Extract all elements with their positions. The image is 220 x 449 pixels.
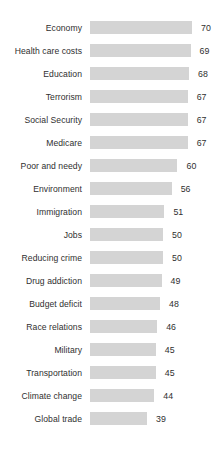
bar <box>90 389 154 402</box>
category-label: Economy <box>0 22 82 33</box>
bar <box>90 366 156 379</box>
value-label: 67 <box>197 91 207 102</box>
category-label: Race relations <box>0 321 82 332</box>
bar-row: Health care costs69 <box>0 44 220 57</box>
bar-row: Climate change44 <box>0 389 220 402</box>
bar-row: Economy70 <box>0 21 220 34</box>
bar <box>90 182 172 195</box>
bar-row: Poor and needy60 <box>0 159 220 172</box>
bar <box>90 44 191 57</box>
bar <box>90 251 163 264</box>
category-label: Military <box>0 344 82 355</box>
bar-row: Jobs50 <box>0 228 220 241</box>
value-label: 50 <box>172 252 182 263</box>
bar-row: Race relations46 <box>0 320 220 333</box>
horizontal-bar-chart: Economy70Health care costs69Education68T… <box>0 0 220 449</box>
bar-row: Transportation45 <box>0 366 220 379</box>
bar-row: Medicare67 <box>0 136 220 149</box>
bar <box>90 205 164 218</box>
bar-row: Global trade39 <box>0 412 220 425</box>
category-label: Immigration <box>0 206 82 217</box>
category-label: Education <box>0 68 82 79</box>
bar-row: Reducing crime50 <box>0 251 220 264</box>
category-label: Transportation <box>0 367 82 378</box>
category-label: Global trade <box>0 413 82 424</box>
value-label: 70 <box>201 22 211 33</box>
category-label: Jobs <box>0 229 82 240</box>
value-label: 49 <box>171 275 181 286</box>
bar-row: Environment56 <box>0 182 220 195</box>
value-label: 67 <box>197 137 207 148</box>
category-label: Social Security <box>0 114 82 125</box>
bar <box>90 412 147 425</box>
category-label: Terrorism <box>0 91 82 102</box>
category-label: Medicare <box>0 137 82 148</box>
value-label: 56 <box>181 183 191 194</box>
bar-row: Budget deficit48 <box>0 297 220 310</box>
category-label: Environment <box>0 183 82 194</box>
value-label: 68 <box>198 68 208 79</box>
bar <box>90 343 156 356</box>
bar <box>90 159 177 172</box>
bar-row: Immigration51 <box>0 205 220 218</box>
bar <box>90 228 163 241</box>
category-label: Budget deficit <box>0 298 82 309</box>
value-label: 50 <box>172 229 182 240</box>
bar-row: Education68 <box>0 67 220 80</box>
bar <box>90 136 188 149</box>
category-label: Poor and needy <box>0 160 82 171</box>
category-label: Reducing crime <box>0 252 82 263</box>
value-label: 44 <box>163 390 173 401</box>
bar-row: Social Security67 <box>0 113 220 126</box>
category-label: Climate change <box>0 390 82 401</box>
value-label: 46 <box>166 321 176 332</box>
value-label: 51 <box>173 206 183 217</box>
value-label: 45 <box>165 344 175 355</box>
value-label: 67 <box>197 114 207 125</box>
bar <box>90 274 162 287</box>
category-label: Drug addiction <box>0 275 82 286</box>
value-label: 39 <box>156 413 166 424</box>
bar-row: Military45 <box>0 343 220 356</box>
value-label: 48 <box>169 298 179 309</box>
bar <box>90 67 189 80</box>
bar <box>90 297 160 310</box>
bar <box>90 90 188 103</box>
category-label: Health care costs <box>0 45 82 56</box>
value-label: 69 <box>200 45 210 56</box>
value-label: 45 <box>165 367 175 378</box>
bar-row: Terrorism67 <box>0 90 220 103</box>
bar <box>90 320 157 333</box>
bar <box>90 113 188 126</box>
bar <box>90 21 192 34</box>
value-label: 60 <box>186 160 196 171</box>
bar-row: Drug addiction49 <box>0 274 220 287</box>
